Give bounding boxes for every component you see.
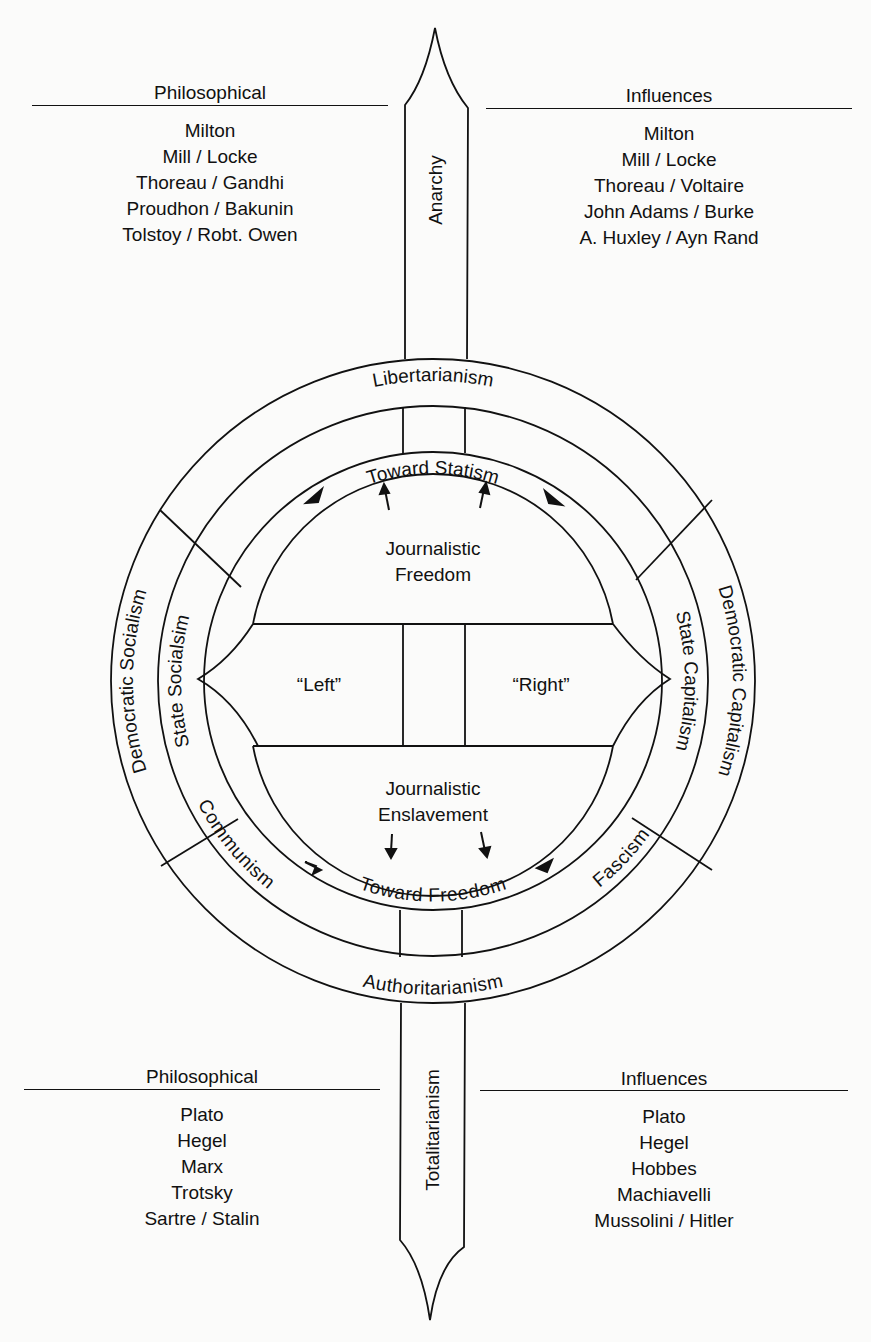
ring-2 <box>158 406 708 956</box>
anarchy-label: Anarchy <box>425 155 446 225</box>
ring-3 <box>204 452 662 910</box>
libertarianism-label: Libertarianism <box>371 364 496 391</box>
arrow-down-icon <box>480 847 490 857</box>
political-spectrum-diagram: Anarchy Totalitarianism Libertarianism A… <box>0 0 871 1342</box>
arrowhead-right-icon <box>545 491 562 505</box>
communism-label: Communism <box>194 796 279 893</box>
authoritarianism-label: Authoritarianism <box>361 970 504 999</box>
journalistic-freedom-line1: Journalistic <box>385 538 480 559</box>
journalistic-enslavement-line2: Enslavement <box>378 804 489 825</box>
democratic-capitalism-label: Democratic Capitalism <box>714 583 750 780</box>
state-capitalism-label: State Capitalism <box>672 608 702 753</box>
journalistic-freedom-line2: Freedom <box>395 564 471 585</box>
state-socialism-label: State Socialsim <box>164 612 193 749</box>
left-label: “Left” <box>297 674 341 695</box>
arrow-up-icon <box>380 484 389 494</box>
arrow-down-icon <box>386 849 396 858</box>
toward-freedom-label: Toward Freedom <box>358 873 509 906</box>
arrowhead-left-icon <box>306 489 322 503</box>
outer-ring <box>111 359 755 1003</box>
toward-statism-label: Toward Statism <box>364 457 501 488</box>
journalistic-enslavement-line1: Journalistic <box>385 778 480 799</box>
democratic-socialism-label: Democratic Socialism <box>116 586 151 775</box>
right-label: “Right” <box>512 674 569 695</box>
totalitarianism-label: Totalitarianism <box>422 1069 443 1190</box>
